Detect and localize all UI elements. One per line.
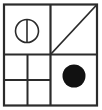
figure-canvas: Quadrant symbol grid A square outline di… [0, 0, 102, 110]
quadrant-grid-diagram [0, 0, 102, 110]
filled-circle-icon [63, 65, 86, 88]
quadrant-bottom-right [63, 65, 86, 88]
